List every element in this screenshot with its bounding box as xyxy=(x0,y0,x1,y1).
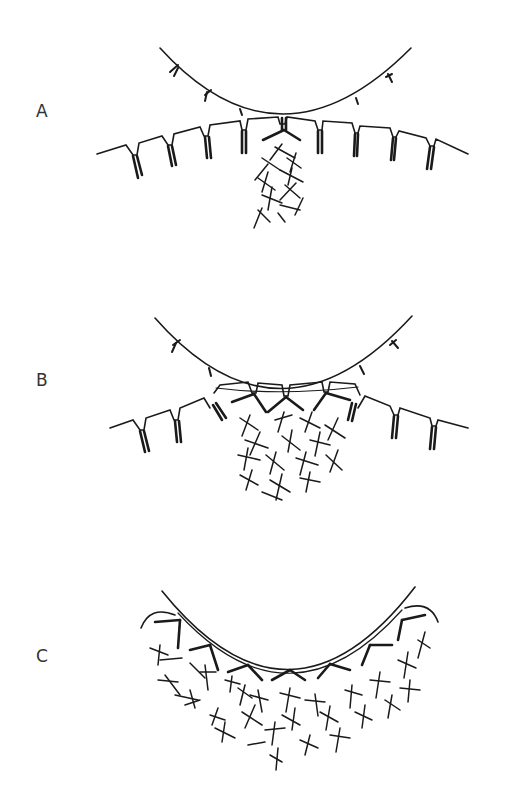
activated-receptors xyxy=(232,393,350,412)
lower-receptor-stalks xyxy=(133,131,434,178)
contact-membrane-double xyxy=(178,610,402,673)
activated-receptor xyxy=(263,118,300,140)
filament-network xyxy=(254,144,303,228)
panel-c xyxy=(141,587,438,770)
diagram-canvas xyxy=(0,0,506,798)
lower-cell-membrane-right xyxy=(358,396,468,428)
lower-cell-membrane-left xyxy=(110,398,210,430)
upper-cell-membrane xyxy=(162,587,415,670)
upper-cell-membrane xyxy=(155,316,412,389)
filament-meshwork xyxy=(150,632,430,770)
upper-cell-membrane xyxy=(160,48,411,114)
panel-b xyxy=(110,316,468,500)
filament-network xyxy=(238,412,345,500)
panel-a xyxy=(97,48,468,228)
activated-receptors xyxy=(155,615,425,680)
upper-receptor-ticks xyxy=(172,340,398,376)
